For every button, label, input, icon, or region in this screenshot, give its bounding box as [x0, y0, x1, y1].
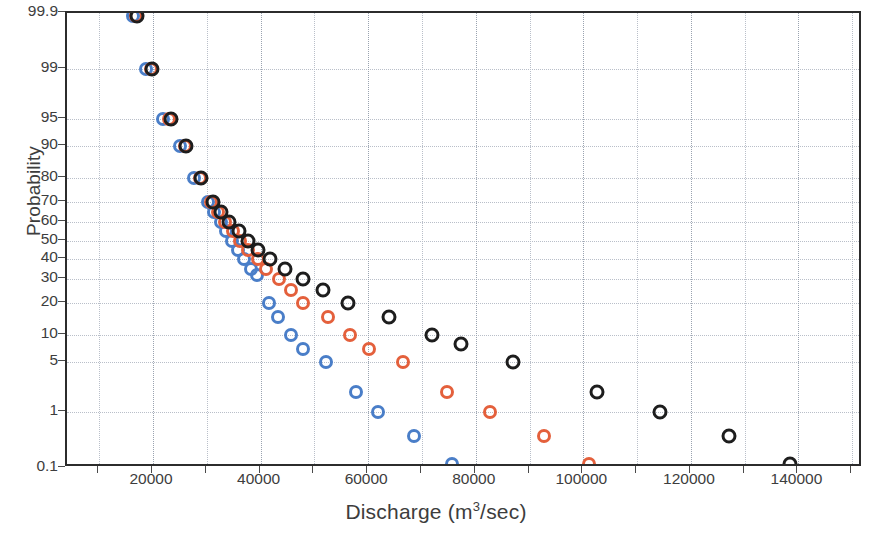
x-axis-tick: [581, 466, 582, 473]
data-point: [506, 354, 521, 369]
y-axis-tick: [58, 466, 65, 467]
gridline-vertical: [368, 13, 369, 464]
data-point: [424, 328, 439, 343]
y-axis-tick-label: 30: [41, 268, 58, 286]
gridline-vertical: [691, 13, 692, 464]
x-axis-tick-minor: [312, 466, 313, 473]
x-axis-tick-minor: [205, 466, 206, 473]
x-axis-tick: [151, 466, 152, 473]
data-point: [396, 355, 410, 369]
gridline-horizontal: [67, 303, 859, 304]
gridline-vertical-minor: [314, 13, 315, 464]
y-axis-tick: [58, 301, 65, 302]
gridline-horizontal: [67, 119, 859, 120]
gridline-vertical-minor: [422, 13, 423, 464]
y-axis-tick-label: 0.1: [36, 457, 58, 475]
data-point: [371, 405, 385, 419]
y-axis-tick: [58, 67, 65, 68]
gridline-horizontal: [67, 202, 859, 203]
gridline-vertical: [583, 13, 584, 464]
data-point: [164, 112, 179, 127]
data-point: [349, 385, 363, 399]
data-point: [262, 296, 276, 310]
data-point: [321, 310, 335, 324]
data-point: [284, 283, 298, 297]
gridline-horizontal: [67, 222, 859, 223]
y-axis-tick-label: 95: [41, 108, 58, 126]
y-axis-tick-label: 10: [41, 324, 58, 342]
y-axis-tick: [58, 360, 65, 361]
y-axis-tick-label: 70: [41, 191, 58, 209]
x-axis-tick-minor: [743, 466, 744, 473]
gridline-vertical: [476, 13, 477, 464]
y-axis-tick-label: 50: [41, 230, 58, 248]
y-axis-tick: [58, 11, 65, 12]
gridline-horizontal: [67, 259, 859, 260]
y-axis-tick-label: 20: [41, 292, 58, 310]
data-point: [263, 252, 278, 267]
gridline-horizontal: [67, 362, 859, 363]
data-point: [296, 296, 310, 310]
data-point: [284, 328, 298, 342]
data-point: [440, 385, 454, 399]
probability-plot-figure: Probability 99.9999590807060504030201051…: [0, 0, 872, 535]
x-axis-tick-minor: [635, 466, 636, 473]
y-axis-tick-labels: 99.99995908070605040302010510.1: [0, 0, 62, 477]
y-axis-tick: [58, 277, 65, 278]
data-point: [316, 283, 331, 298]
data-point: [296, 342, 310, 356]
y-axis-tick-label: 80: [41, 167, 58, 185]
data-point: [362, 342, 376, 356]
x-axis-tick: [259, 466, 260, 473]
data-point: [407, 429, 421, 443]
y-axis-tick-label: 99: [41, 58, 58, 76]
x-axis-tick-minor: [528, 466, 529, 473]
data-point: [194, 171, 209, 186]
y-axis-tick: [58, 333, 65, 334]
data-point: [295, 272, 310, 287]
data-point: [129, 13, 144, 24]
gridline-vertical-minor: [637, 13, 638, 464]
data-point: [721, 428, 736, 443]
data-point: [343, 328, 357, 342]
plot-area: [65, 11, 861, 466]
x-axis-tick: [474, 466, 475, 473]
y-axis-tick: [58, 117, 65, 118]
x-axis-tick-minor: [420, 466, 421, 473]
y-axis-tick-label: 60: [41, 211, 58, 229]
y-axis-tick-label: 40: [41, 248, 58, 266]
gridline-horizontal: [67, 178, 859, 179]
x-axis-tick-minor: [850, 466, 851, 473]
data-point: [381, 309, 396, 324]
x-axis-tick-minor: [97, 466, 98, 473]
data-point: [652, 404, 667, 419]
y-axis-tick: [58, 410, 65, 411]
data-point: [179, 138, 194, 153]
gridline-vertical: [798, 13, 799, 464]
y-axis-tick: [58, 144, 65, 145]
y-axis-tick-label: 90: [41, 135, 58, 153]
data-point: [582, 457, 596, 464]
data-point: [278, 261, 293, 276]
gridline-vertical-minor: [530, 13, 531, 464]
gridline-horizontal: [67, 412, 859, 413]
plot-inner: [67, 13, 859, 464]
y-axis-tick: [58, 200, 65, 201]
y-axis-tick: [58, 239, 65, 240]
gridline-horizontal: [67, 279, 859, 280]
data-point: [590, 384, 605, 399]
y-axis-tick: [58, 257, 65, 258]
x-axis-tick: [366, 466, 367, 473]
gridline-vertical: [261, 13, 262, 464]
data-point: [319, 355, 333, 369]
y-axis-tick-label: 5: [49, 351, 58, 369]
gridline-horizontal: [67, 241, 859, 242]
gridline-vertical-minor: [99, 13, 100, 464]
data-point: [271, 310, 285, 324]
data-point: [453, 337, 468, 352]
x-axis-tick-labels: 20000400006000080000100000120000140000: [65, 470, 861, 496]
y-axis-tick: [58, 220, 65, 221]
gridline-horizontal: [67, 335, 859, 336]
y-axis-tick-label: 99.9: [28, 2, 58, 20]
y-axis-tick: [58, 176, 65, 177]
